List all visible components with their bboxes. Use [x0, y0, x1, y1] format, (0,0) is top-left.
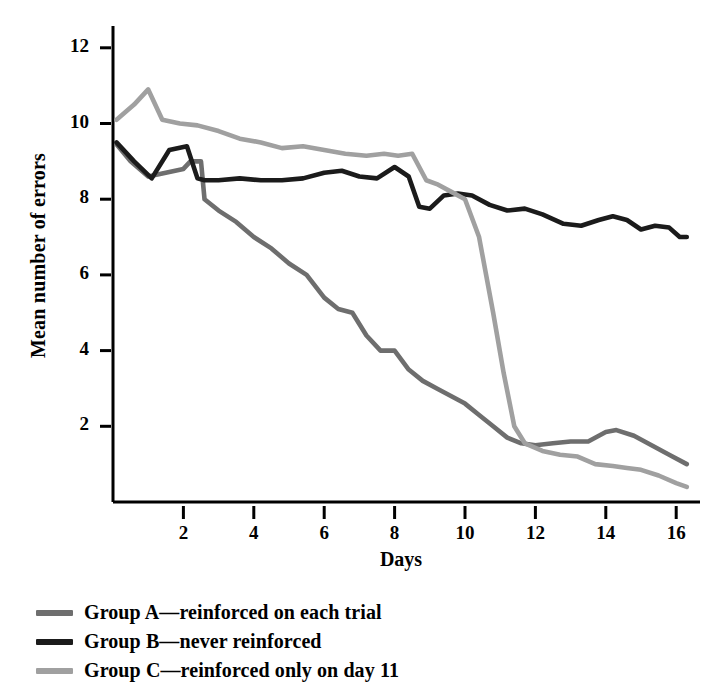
- legend-swatch-icon: [36, 668, 73, 674]
- x-axis-tick-label: 12: [505, 522, 565, 544]
- legend-item[interactable]: Group A—reinforced on each trial: [36, 598, 696, 627]
- legend-item-label: Group A—reinforced on each trial: [84, 601, 382, 624]
- x-axis-tick-label: 4: [224, 522, 284, 544]
- x-axis-tick-label: 2: [153, 522, 213, 544]
- series-line-a: [117, 144, 687, 464]
- x-axis-tick-label: 6: [294, 522, 354, 544]
- x-axis-title-text: Days: [380, 548, 422, 570]
- legend-item[interactable]: Group B—never reinforced: [36, 627, 696, 656]
- data-series-group: [117, 89, 687, 486]
- plot-svg: [0, 0, 710, 560]
- y-axis-tick-label: 2: [21, 413, 89, 435]
- legend-swatch-icon: [36, 639, 73, 645]
- legend-item-label: Group C—reinforced only on day 11: [84, 659, 399, 682]
- legend-item-label: Group B—never reinforced: [84, 630, 322, 653]
- x-axis-title: Days: [0, 548, 710, 571]
- series-line-c: [117, 89, 687, 486]
- y-axis-title: Mean number of errors: [27, 106, 50, 406]
- line-chart-figure: 24681012 246810121416 Mean number of err…: [0, 0, 710, 688]
- legend-swatch-icon: [36, 610, 73, 616]
- legend-item[interactable]: Group C—reinforced only on day 11: [36, 656, 696, 685]
- y-axis-ticks: [100, 48, 111, 427]
- chart-legend: Group A—reinforced on each trialGroup B—…: [36, 598, 696, 685]
- x-axis-ticks: [183, 506, 676, 519]
- x-axis-tick-label: 10: [435, 522, 495, 544]
- x-axis-tick-label: 16: [646, 522, 706, 544]
- x-axis-tick-label: 8: [365, 522, 425, 544]
- x-axis-tick-label: 14: [576, 522, 636, 544]
- y-axis-tick-label: 12: [21, 35, 89, 57]
- plot-area: 24681012 246810121416 Mean number of err…: [0, 0, 710, 560]
